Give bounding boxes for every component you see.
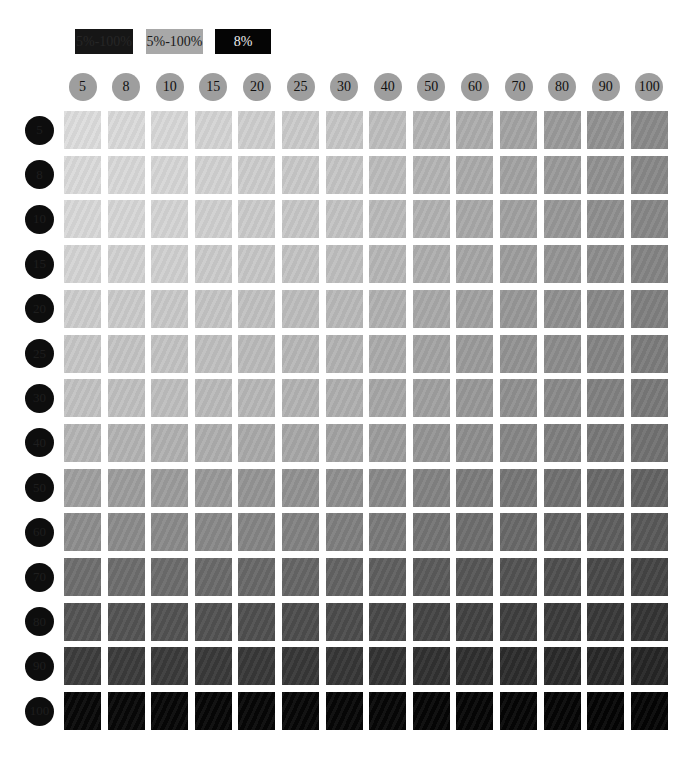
tint-cell	[456, 647, 493, 685]
tint-cell	[631, 290, 668, 328]
tint-cell	[631, 245, 668, 283]
column-header: 80	[548, 73, 576, 101]
tint-cell	[456, 513, 493, 551]
tint-cell	[64, 603, 101, 641]
tint-cell	[544, 200, 581, 238]
tint-cell	[195, 603, 232, 641]
tint-cell	[369, 111, 406, 149]
tint-cell	[326, 200, 363, 238]
column-header: 30	[330, 73, 358, 101]
tint-cell	[544, 469, 581, 507]
tint-cell	[108, 200, 145, 238]
tint-cell	[456, 335, 493, 373]
tint-cell	[413, 424, 450, 462]
tint-cell	[238, 424, 275, 462]
tint-cell	[64, 379, 101, 417]
tint-cell	[369, 156, 406, 194]
row-header: 90	[25, 652, 54, 681]
tint-cell	[151, 290, 188, 328]
tint-cell	[238, 379, 275, 417]
tint-cell	[326, 111, 363, 149]
tint-cell	[587, 379, 624, 417]
tint-cell	[413, 379, 450, 417]
tint-cell	[282, 200, 319, 238]
tint-cell	[587, 111, 624, 149]
tint-cell	[64, 558, 101, 596]
legend-swatch-black: 8%	[215, 29, 271, 54]
tint-cell	[413, 469, 450, 507]
tint-cell	[587, 290, 624, 328]
tint-cell	[631, 603, 668, 641]
tint-cell	[151, 156, 188, 194]
tint-cell	[195, 647, 232, 685]
tint-cell	[326, 156, 363, 194]
tint-cell	[587, 603, 624, 641]
row-header: 80	[25, 607, 54, 636]
tint-cell	[369, 424, 406, 462]
tint-cell	[631, 558, 668, 596]
column-header: 10	[156, 73, 184, 101]
row-header: 15	[25, 250, 54, 279]
tint-cell	[195, 156, 232, 194]
tint-cell	[238, 156, 275, 194]
tint-cell	[151, 692, 188, 730]
tint-cell	[369, 379, 406, 417]
tint-cell	[631, 424, 668, 462]
tint-cell	[238, 111, 275, 149]
tint-cell	[544, 692, 581, 730]
tint-cell	[413, 603, 450, 641]
tint-cell	[282, 513, 319, 551]
tint-cell	[326, 558, 363, 596]
tint-cell	[544, 245, 581, 283]
legend-swatch-dark: 5%-100%	[75, 29, 133, 54]
tint-cell	[587, 692, 624, 730]
tint-cell	[151, 200, 188, 238]
tint-cell	[282, 469, 319, 507]
tint-cell	[108, 335, 145, 373]
tint-cell	[413, 290, 450, 328]
tint-cell	[369, 335, 406, 373]
tint-cell	[238, 200, 275, 238]
tint-cell	[326, 692, 363, 730]
tint-cell	[282, 290, 319, 328]
tint-cell	[456, 692, 493, 730]
tint-cell	[151, 469, 188, 507]
tint-cell	[500, 379, 537, 417]
tint-cell	[108, 424, 145, 462]
tint-cell	[500, 513, 537, 551]
tint-cell	[456, 200, 493, 238]
tint-cell	[282, 647, 319, 685]
tint-cell	[631, 156, 668, 194]
tint-cell	[544, 647, 581, 685]
tint-cell	[326, 603, 363, 641]
tint-cell	[631, 379, 668, 417]
tint-cell	[631, 111, 668, 149]
column-header: 8	[112, 73, 140, 101]
tint-cell	[282, 424, 319, 462]
tint-cell	[413, 647, 450, 685]
column-header: 20	[243, 73, 271, 101]
row-header: 50	[25, 473, 54, 502]
tint-cell	[195, 335, 232, 373]
tint-cell	[544, 558, 581, 596]
row-header: 30	[25, 384, 54, 413]
column-header: 90	[592, 73, 620, 101]
tint-cell	[108, 558, 145, 596]
tint-cell	[413, 156, 450, 194]
tint-cell	[456, 603, 493, 641]
tint-cell	[369, 290, 406, 328]
tint-cell	[369, 692, 406, 730]
tint-cell	[544, 424, 581, 462]
tint-cell	[282, 111, 319, 149]
tint-cell	[326, 379, 363, 417]
tint-cell	[282, 245, 319, 283]
tint-cell	[500, 156, 537, 194]
tint-cell	[369, 245, 406, 283]
tint-cell	[151, 603, 188, 641]
tint-cell	[238, 469, 275, 507]
tint-cell	[500, 692, 537, 730]
tint-cell	[544, 335, 581, 373]
tint-cell	[500, 111, 537, 149]
tint-cell	[631, 469, 668, 507]
tint-cell	[587, 424, 624, 462]
